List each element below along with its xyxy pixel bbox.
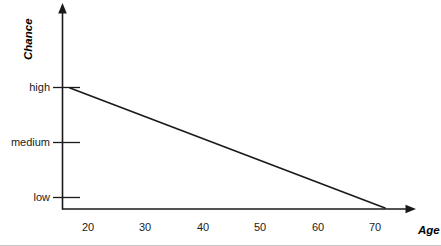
y-tick-label-medium: medium xyxy=(0,136,50,148)
x-tick-label-50: 50 xyxy=(245,221,275,233)
chart-plot-area xyxy=(0,0,441,246)
x-axis-arrow-icon xyxy=(406,205,417,214)
y-axis-title: Chance xyxy=(22,18,34,60)
chart-container: Chance Age high medium low 20 30 40 50 6… xyxy=(0,0,441,246)
y-axis-arrow-icon xyxy=(58,3,67,14)
x-tick-label-30: 30 xyxy=(130,221,160,233)
x-tick-label-20: 20 xyxy=(73,221,103,233)
x-tick-label-60: 60 xyxy=(303,221,333,233)
x-axis-title: Age xyxy=(418,224,440,236)
data-series-line xyxy=(70,88,385,208)
y-tick-label-low: low xyxy=(0,191,50,203)
x-tick-label-40: 40 xyxy=(188,221,218,233)
y-tick-label-high: high xyxy=(0,81,50,93)
x-tick-label-70: 70 xyxy=(360,221,390,233)
